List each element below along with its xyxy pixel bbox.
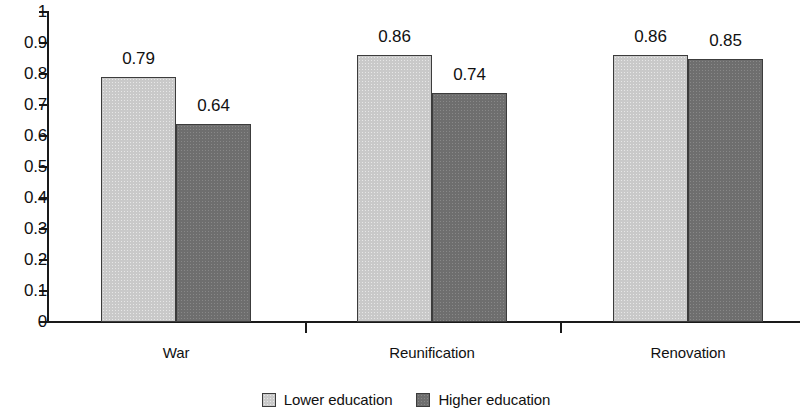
bar — [432, 93, 507, 322]
legend-swatch-icon — [416, 393, 430, 407]
x-axis-category-label: War — [56, 345, 296, 361]
bar — [357, 55, 432, 322]
chart-legend: Lower educationHigher education — [0, 392, 812, 408]
legend-item[interactable]: Higher education — [416, 392, 550, 408]
bar-value-label: 0.85 — [678, 32, 773, 49]
legend-item[interactable]: Lower education — [262, 392, 393, 408]
bar — [613, 55, 688, 322]
x-axis-tick-mark — [560, 323, 562, 333]
bar — [688, 59, 763, 323]
bar — [176, 124, 251, 322]
x-axis-category-label: Renovation — [568, 345, 808, 361]
legend-label: Lower education — [284, 392, 393, 408]
plot-area: 00.10.20.30.40.50.60.70.80.91 0.790.640.… — [0, 0, 812, 380]
bar-value-label: 0.79 — [91, 50, 186, 67]
x-axis-category-label: Reunification — [312, 345, 552, 361]
bar — [101, 77, 176, 322]
bar-value-label: 0.74 — [422, 66, 517, 83]
bar-value-label: 0.86 — [347, 28, 442, 45]
legend-swatch-icon — [262, 393, 276, 407]
bar-chart: 00.10.20.30.40.50.60.70.80.91 0.790.640.… — [0, 0, 812, 420]
legend-label: Higher education — [438, 392, 550, 408]
bar-value-label: 0.64 — [166, 97, 261, 114]
x-axis-tick-mark — [305, 323, 307, 333]
